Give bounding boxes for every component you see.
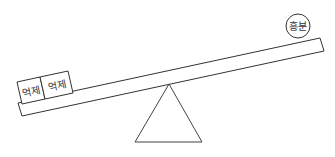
seesaw-diagram: 억제 억제 흥분	[0, 0, 335, 157]
excitation-circle-label: 흥분	[289, 20, 307, 32]
fulcrum-triangle	[135, 84, 202, 142]
excitation-circle: 흥분	[286, 14, 310, 38]
